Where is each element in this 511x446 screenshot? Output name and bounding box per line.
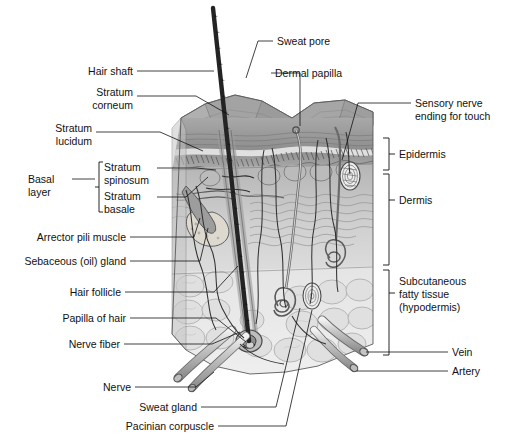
label-stratum-spinosum-l1: Stratum bbox=[104, 161, 141, 173]
label-stratum-basale-l2: basale bbox=[104, 203, 135, 215]
label-sebaceous-oil-gland: Sebaceous (oil) gland bbox=[24, 255, 126, 267]
label-stratum-basale-l1: Stratum bbox=[104, 190, 141, 202]
label-hair-follicle: Hair follicle bbox=[70, 286, 122, 298]
label-dermal-papilla: Dermal papilla bbox=[275, 67, 342, 79]
label-sweat-gland: Sweat gland bbox=[139, 401, 197, 413]
label-artery: Artery bbox=[452, 365, 481, 377]
label-hair-shaft: Hair shaft bbox=[88, 65, 133, 77]
label-sweat-pore: Sweat pore bbox=[277, 35, 330, 47]
label-nerve-fiber: Nerve fiber bbox=[69, 338, 121, 350]
label-vein: Vein bbox=[452, 346, 473, 358]
label-subcutaneous-l3: (hypodermis) bbox=[399, 301, 460, 313]
label-subcutaneous-l1: Subcutaneous bbox=[399, 275, 466, 287]
label-epidermis: Epidermis bbox=[399, 148, 446, 160]
label-stratum-corneum-l1: Stratum bbox=[96, 86, 133, 98]
label-sensory-nerve-ending-l2: ending for touch bbox=[415, 110, 490, 122]
label-arrector-pili-muscle: Arrector pili muscle bbox=[37, 231, 126, 243]
label-pacinian-corpuscle: Pacinian corpuscle bbox=[126, 420, 214, 432]
label-text-top: Sweat pore Dermal papilla bbox=[275, 35, 342, 79]
label-nerve: Nerve bbox=[103, 381, 131, 393]
skin-anatomy-figure: Hair shaft Stratum corneum Stratum lucid… bbox=[0, 0, 511, 446]
label-stratum-corneum-l2: corneum bbox=[92, 99, 133, 111]
label-subcutaneous-l2: fatty tissue bbox=[399, 288, 449, 300]
label-stratum-lucidum-l2: lucidum bbox=[56, 135, 92, 147]
label-text-right: Sensory nerve ending for touch Epidermis… bbox=[399, 97, 490, 377]
label-dermis: Dermis bbox=[399, 194, 432, 206]
label-basal-layer-l2: layer bbox=[28, 186, 51, 198]
label-stratum-spinosum-l2: spinosum bbox=[104, 174, 149, 186]
pacinian-corpuscle-shape bbox=[340, 162, 360, 190]
label-basal-layer-l1: Basal bbox=[28, 173, 54, 185]
block-left-face bbox=[172, 118, 186, 350]
label-papilla-of-hair: Papilla of hair bbox=[62, 312, 126, 324]
label-sensory-nerve-ending-l1: Sensory nerve bbox=[415, 97, 483, 109]
label-stratum-lucidum-l1: Stratum bbox=[55, 122, 92, 134]
skin-cross-section-illustration: Hair shaft Stratum corneum Stratum lucid… bbox=[0, 0, 511, 446]
